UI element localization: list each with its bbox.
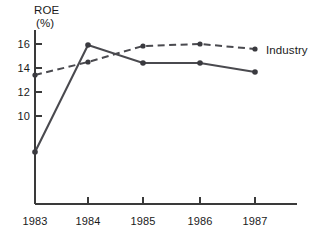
roe-line-chart: ROE (%) 16 14 12 10 1983 1984 1985 1986 … (0, 0, 311, 239)
point-company-1986 (197, 60, 203, 66)
point-industry-1985 (140, 43, 145, 48)
point-industry-1984 (85, 59, 90, 64)
point-company-1987 (252, 69, 258, 75)
chart-plot-area (0, 0, 311, 239)
point-company-1983 (32, 149, 38, 155)
series-line-industry (35, 44, 255, 75)
point-company-1984 (85, 42, 91, 48)
point-industry-1986 (197, 41, 202, 46)
point-industry-1983 (32, 72, 37, 77)
point-company-1985 (140, 60, 146, 66)
point-industry-1987 (252, 46, 257, 51)
